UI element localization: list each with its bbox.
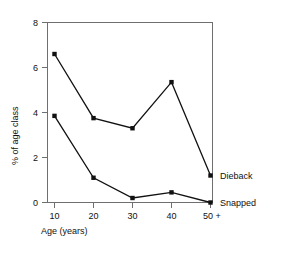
chart-background bbox=[0, 0, 295, 260]
data-point bbox=[52, 114, 56, 118]
data-point bbox=[130, 196, 134, 200]
y-tick-label-8: 8 bbox=[33, 18, 38, 28]
x-tick-label-50plus: 50 + bbox=[203, 211, 221, 221]
y-tick-label-4: 4 bbox=[33, 108, 38, 118]
x-tick-label-20: 20 bbox=[88, 211, 98, 221]
data-point bbox=[208, 200, 212, 204]
x-axis-title: Age (years) bbox=[41, 226, 88, 236]
y-axis-title: % of age class bbox=[10, 106, 20, 165]
data-point bbox=[91, 176, 95, 180]
chart-figure: 0 2 4 6 8 10 20 30 40 50 + Dieback Snapp… bbox=[0, 0, 295, 260]
x-tick-label-40: 40 bbox=[166, 211, 176, 221]
data-point bbox=[169, 190, 173, 194]
series-label-dieback: Dieback bbox=[220, 171, 253, 181]
y-tick-label-2: 2 bbox=[33, 153, 38, 163]
x-tick-label-10: 10 bbox=[49, 211, 59, 221]
series-label-snapped: Snapped bbox=[220, 198, 256, 208]
data-point bbox=[91, 116, 95, 120]
data-point bbox=[169, 80, 173, 84]
data-point bbox=[52, 52, 56, 56]
y-tick-label-6: 6 bbox=[33, 63, 38, 73]
line-chart: 0 2 4 6 8 10 20 30 40 50 + Dieback Snapp… bbox=[0, 0, 295, 260]
y-tick-label-0: 0 bbox=[33, 198, 38, 208]
data-point bbox=[208, 173, 212, 177]
x-tick-label-30: 30 bbox=[127, 211, 137, 221]
data-point bbox=[130, 126, 134, 130]
